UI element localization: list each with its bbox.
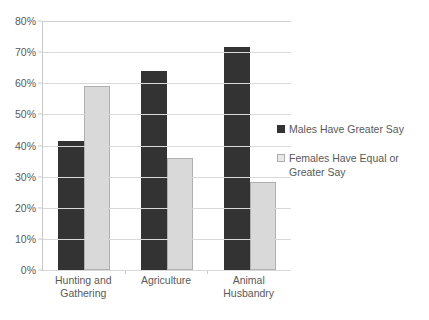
- y-axis-tick-label: 50%: [15, 109, 36, 120]
- y-axis-tick-label: 60%: [15, 78, 36, 89]
- plot-area: [42, 21, 291, 271]
- gridline: [43, 270, 291, 271]
- legend-item[interactable]: Females Have Equal or Greater Say: [277, 151, 429, 179]
- bar: [250, 182, 276, 270]
- bar: [224, 47, 250, 270]
- gridline: [43, 208, 291, 209]
- y-axis-tick-label: 30%: [15, 171, 36, 182]
- legend: Males Have Greater SayFemales Have Equal…: [277, 122, 429, 194]
- y-axis-tick-label: 0%: [21, 265, 36, 276]
- bar: [58, 141, 84, 270]
- gridline: [43, 21, 291, 22]
- x-axis-category-label: Agriculture: [125, 274, 208, 318]
- x-axis-category-label: Animal Husbandry: [207, 274, 290, 318]
- bar: [141, 71, 167, 270]
- y-axis-tick-label: 70%: [15, 47, 36, 58]
- y-axis-tick-label: 20%: [15, 202, 36, 213]
- bar-chart: 80%70%60%50%40%30%20%10%0% Hunting and G…: [0, 0, 429, 320]
- legend-item[interactable]: Males Have Greater Say: [277, 122, 429, 136]
- legend-swatch-icon: [277, 125, 285, 133]
- y-axis: 80%70%60%50%40%30%20%10%0%: [0, 21, 42, 270]
- x-axis: Hunting and GatheringAgricultureAnimal H…: [42, 274, 290, 318]
- legend-item-label: Males Have Greater Say: [289, 122, 404, 136]
- gridline: [43, 146, 291, 147]
- x-axis-category-label: Hunting and Gathering: [42, 274, 125, 318]
- gridline: [43, 239, 291, 240]
- gridline: [43, 114, 291, 115]
- legend-item-label: Females Have Equal or Greater Say: [289, 151, 429, 179]
- gridline: [43, 52, 291, 53]
- legend-swatch-icon: [277, 154, 285, 162]
- y-axis-tick-label: 80%: [15, 16, 36, 27]
- gridline: [43, 177, 291, 178]
- bar: [167, 158, 193, 270]
- y-axis-tick-label: 40%: [15, 140, 36, 151]
- gridline: [43, 83, 291, 84]
- y-axis-tick-label: 10%: [15, 233, 36, 244]
